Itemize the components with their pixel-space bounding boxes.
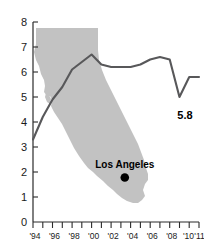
x-axis-label-2011: '11 bbox=[194, 231, 204, 241]
y-axis-label-8: 8 bbox=[21, 16, 27, 28]
x-axis-label-2000: '00 bbox=[88, 231, 99, 241]
x-axis-label-2002: '02 bbox=[108, 231, 119, 241]
x-axis-label-2008: '08 bbox=[166, 231, 177, 241]
los-angeles-label: Los Angeles bbox=[95, 159, 155, 170]
end-value-label: 5.8 bbox=[177, 109, 192, 121]
y-axis-label-1: 1 bbox=[21, 191, 27, 203]
x-axis-label-2010: '10 bbox=[183, 231, 194, 241]
chart-canvas: 8 7 6 5 4 3 2 1 0 bbox=[0, 0, 204, 250]
y-axis-label-2: 2 bbox=[21, 166, 27, 178]
x-axis-label-1996: '96 bbox=[49, 231, 60, 241]
y-axis-label-6: 6 bbox=[21, 66, 27, 78]
x-axis-label-1998: '98 bbox=[69, 231, 80, 241]
los-angeles-city-dot bbox=[120, 173, 129, 182]
x-axis-label-1994: '94 bbox=[29, 231, 40, 241]
y-axis-label-7: 7 bbox=[21, 41, 27, 53]
x-tick-marks bbox=[33, 222, 199, 228]
x-axis-label-2004: '04 bbox=[127, 231, 138, 241]
y-axis-label-4: 4 bbox=[21, 116, 27, 128]
y-axis-label-0: 0 bbox=[21, 216, 27, 228]
x-axis-label-2006: '06 bbox=[147, 231, 158, 241]
y-axis-label-5: 5 bbox=[21, 91, 27, 103]
unemployment-line-chart-with-california-map: 8 7 6 5 4 3 2 1 0 bbox=[0, 0, 204, 250]
y-axis-label-3: 3 bbox=[21, 141, 27, 153]
